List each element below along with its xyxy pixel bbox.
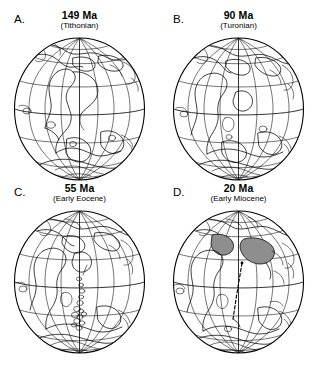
running-head-text	[162, 0, 312, 7]
panel-c-globe	[11, 207, 148, 357]
panel-a: A. 149 Ma (Tithonian)	[0, 8, 159, 190]
hotspot-marker	[241, 262, 244, 265]
panel-d-letter: D.	[173, 187, 185, 198]
panel-b: B. 90 Ma (Turonian)	[159, 8, 318, 190]
panel-d-globe	[170, 207, 307, 357]
panel-a-globe	[11, 34, 148, 184]
panel-c: C. 55 Ma (Early Eocene)	[0, 181, 159, 363]
figure-paleogeographic-globes: A. 149 Ma (Tithonian)	[0, 0, 318, 365]
panel-b-letter: B.	[173, 14, 184, 25]
panel-a-letter: A.	[14, 14, 25, 25]
panel-c-letter: C.	[14, 187, 26, 198]
panel-b-globe	[170, 34, 307, 184]
panel-d: D. 20 Ma (Early Miocene)	[159, 181, 318, 363]
